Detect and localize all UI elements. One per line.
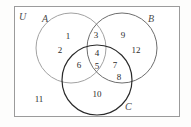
element-8: 8 — [117, 73, 122, 82]
universe-label: U — [19, 12, 26, 22]
element-10: 10 — [93, 90, 102, 99]
element-1: 1 — [66, 32, 71, 41]
element-5: 5 — [95, 62, 100, 71]
venn-diagram-figure: U A B C 1 2 3 9 12 4 5 6 7 8 10 11 — [0, 0, 191, 127]
element-3: 3 — [94, 31, 99, 40]
element-12: 12 — [132, 46, 141, 55]
element-11: 11 — [35, 95, 44, 104]
element-9: 9 — [121, 31, 126, 40]
element-6: 6 — [77, 61, 82, 70]
set-label-c: C — [125, 102, 132, 112]
element-4: 4 — [95, 49, 100, 58]
element-2: 2 — [58, 46, 63, 55]
element-7: 7 — [113, 61, 118, 70]
set-label-a: A — [42, 14, 48, 24]
set-label-b: B — [148, 14, 154, 24]
